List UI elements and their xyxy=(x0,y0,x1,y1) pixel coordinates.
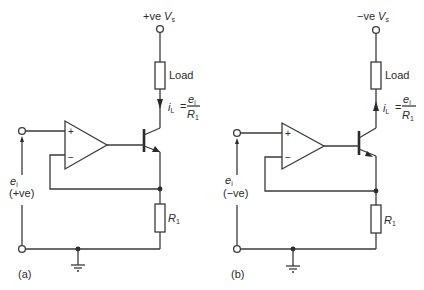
svg-text:ei: ei xyxy=(403,93,411,106)
arrow-up-icon xyxy=(235,138,239,144)
opamp-b: + − xyxy=(282,123,324,169)
svg-text:=: = xyxy=(395,101,401,113)
svg-text:ei: ei xyxy=(188,93,196,106)
input-label-b: ei xyxy=(225,174,233,187)
circuit-figure: +ve Vs Load iL = ei R1 xyxy=(0,0,424,290)
circuit-diagram-svg: +ve Vs Load iL = ei R1 xyxy=(0,0,424,290)
opamp-a: + − xyxy=(65,121,107,169)
supply-terminal-a xyxy=(157,26,164,33)
opamp-plus-b: + xyxy=(285,128,291,139)
svg-text:=: = xyxy=(180,100,186,112)
caption-a: (a) xyxy=(18,268,31,280)
r1-label-b: R1 xyxy=(384,214,396,227)
r1-resistor-b xyxy=(371,205,381,233)
load-label-a: Load xyxy=(169,69,193,81)
svg-text:R1: R1 xyxy=(402,109,414,122)
svg-text:iL: iL xyxy=(383,102,389,115)
arrow-up-icon xyxy=(20,136,24,142)
input-polarity-a: (+ve) xyxy=(9,187,34,199)
input-polarity-b: (−ve) xyxy=(223,187,248,199)
r1-resistor-a xyxy=(155,204,165,232)
return-terminal-a xyxy=(19,246,26,253)
supply-label-a: +ve Vs xyxy=(143,10,175,23)
caption-b: (b) xyxy=(231,268,244,280)
load-label-b: Load xyxy=(385,69,409,81)
panel-a: +ve Vs Load iL = ei R1 xyxy=(9,10,200,280)
arrow-down-icon xyxy=(157,99,163,109)
load-resistor-a xyxy=(155,62,165,89)
arrow-up-icon xyxy=(373,101,379,111)
panel-b: −ve Vs Load iL = ei R1 xyxy=(223,10,416,280)
supply-label-b: −ve Vs xyxy=(357,10,389,23)
svg-text:R1: R1 xyxy=(187,108,199,121)
ground-icon xyxy=(286,249,300,272)
npn-transistor-a xyxy=(144,128,160,189)
input-terminal-a xyxy=(19,128,26,135)
opamp-plus-a: + xyxy=(68,126,74,137)
pnp-transistor-b xyxy=(359,128,376,191)
opamp-minus-a: − xyxy=(68,152,74,163)
current-equation-b: iL = ei R1 xyxy=(383,93,416,122)
load-resistor-b xyxy=(371,62,381,89)
svg-text:iL: iL xyxy=(168,101,174,114)
current-equation-a: iL = ei R1 xyxy=(168,93,200,121)
input-terminal-b xyxy=(234,130,241,137)
supply-terminal-b xyxy=(373,27,380,34)
ground-icon xyxy=(71,249,85,271)
return-terminal-b xyxy=(234,246,241,253)
opamp-minus-b: − xyxy=(285,152,291,163)
r1-label-a: R1 xyxy=(168,212,180,225)
